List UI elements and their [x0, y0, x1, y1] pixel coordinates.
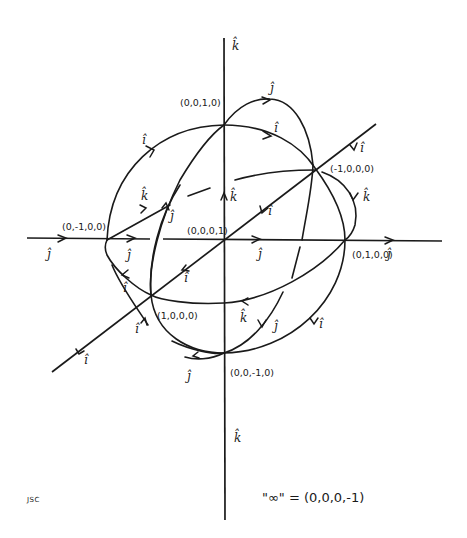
curve-label-j-inner-right: ĵ [256, 247, 263, 261]
axis-label-i-top: î [360, 141, 365, 155]
curve-label-i-top-right: î [274, 121, 279, 135]
circle-k-right-loop [322, 172, 356, 240]
curve-label-j-lower-right: ĵ [272, 319, 279, 333]
curve-label-i-top-left: î [142, 133, 147, 147]
arrow-icon [350, 193, 358, 200]
point-label-m1000: (-1,0,0,0) [330, 163, 374, 174]
curve-label-i-lower-center: î [184, 271, 189, 285]
circle-k-back-dashed-3 [235, 170, 315, 180]
curve-label-i-lower-small: î [135, 322, 140, 336]
circle-i-lower-left [112, 265, 148, 325]
axis-label-i-bottom: î [84, 353, 89, 367]
circle-j-middle [151, 185, 180, 295]
axis-label-k-top: k̂ [232, 36, 239, 53]
curve-label-j-top: ĵ [268, 81, 275, 95]
point-label-0m100: (0,-1,0,0) [62, 221, 106, 232]
circle-k-back-dashed-1 [107, 205, 170, 240]
arrow-icon [262, 97, 270, 104]
curve-label-j-inner-left: ĵ [125, 248, 132, 262]
arrow-icon [193, 352, 199, 358]
quaternion-sphere-diagram: (0,0,1,0) (-1,0,0,0) (0,1,0,0) (0,-1,0,0… [0, 0, 467, 538]
horizontal-j-axis-left [27, 238, 150, 239]
signature: JSC [26, 496, 40, 504]
infinity-note: "∞" = (0,0,0,-1) [262, 490, 364, 505]
curve-label-j-middle: ĵ [168, 209, 175, 223]
curve-label-k-lower: k̂ [240, 308, 247, 325]
axes [27, 38, 442, 520]
point-label-0010: (0,0,1,0) [180, 97, 221, 108]
arrow-icon [310, 318, 318, 324]
point-label-0001: (0,0,0,1) [187, 225, 228, 236]
point-label-00m10: (0,0,-1,0) [230, 367, 274, 378]
circle-i-lower-right [224, 240, 345, 353]
curve-label-k-center: k̂ [230, 187, 237, 204]
arrow-icon [122, 270, 129, 278]
point-label-1000: (1,0,0,0) [157, 310, 198, 321]
circle-k-back-dashed-2 [188, 188, 210, 196]
arrow-icon [242, 298, 248, 305]
arrow-icon [141, 318, 147, 325]
arrow-icon [258, 320, 266, 327]
arrow-icon [140, 205, 146, 213]
curve-label-i-lower-right: î [319, 317, 324, 331]
curve-label-k-right: k̂ [363, 187, 370, 204]
vertical-k-axis [224, 38, 225, 520]
curve-label-j-bottom: ĵ [185, 369, 192, 383]
curve-label-i-center: î [268, 204, 273, 218]
circle-j-dashed [292, 247, 300, 278]
axis-label-j-left: ĵ [45, 247, 52, 261]
axis-label-k-bottom: k̂ [234, 428, 241, 445]
curve-label-k-left: k̂ [141, 186, 148, 203]
diagonal-i-axis [52, 124, 376, 372]
